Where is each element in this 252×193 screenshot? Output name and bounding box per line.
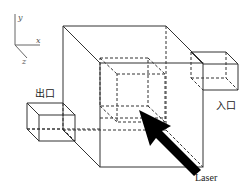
axis-triad: y x z [15,13,41,66]
laser-label: Laser [195,172,218,183]
exit-label: 出口 [35,87,55,99]
z-axis-label: z [21,57,27,66]
inner-cube [100,58,165,122]
x-axis-label: x [36,36,41,45]
outer-cube [63,26,203,167]
entrance-label: 入口 [216,100,236,111]
diagram-canvas: y x z [0,0,252,193]
y-axis-label: y [17,13,23,22]
laser-arrow [139,110,201,176]
